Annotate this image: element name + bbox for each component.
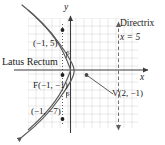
x-axis-label: x	[140, 73, 144, 83]
parabola-path	[22, 5, 74, 137]
point-lower-label: (−1, −7)	[31, 107, 61, 116]
latus-rectum-label: Latus Rectum	[2, 57, 58, 67]
parabola-figure: y x (−1, 5) Latus Rectum F(−1, −1) (−1, …	[0, 0, 165, 145]
tick-lower-label: 6	[66, 91, 70, 98]
focus-label: F(−1, −1)	[33, 81, 68, 90]
directrix-equation-label: x = 5	[120, 33, 140, 43]
vertex-label: V(2, −1)	[112, 89, 143, 98]
point-upper-label: (−1, 5)	[33, 39, 58, 48]
y-axis-label: y	[64, 3, 68, 13]
tick-upper-label: 6	[66, 50, 70, 57]
directrix-label: Directrix	[120, 19, 154, 29]
